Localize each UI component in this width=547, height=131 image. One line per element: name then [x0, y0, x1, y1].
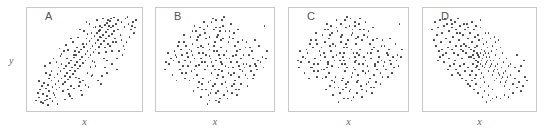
data-point: [192, 54, 194, 56]
plot-area-d: [423, 8, 536, 111]
data-point: [199, 27, 201, 29]
data-point: [47, 104, 49, 106]
data-point: [87, 50, 89, 52]
data-point: [494, 36, 496, 38]
data-point: [59, 48, 61, 50]
data-point: [83, 46, 85, 48]
data-point: [502, 76, 504, 78]
data-point: [42, 93, 44, 95]
data-point: [79, 29, 81, 31]
data-point: [484, 81, 486, 83]
data-point: [198, 52, 200, 54]
data-point: [124, 26, 126, 28]
data-point: [362, 70, 364, 72]
data-point: [500, 81, 502, 83]
data-point: [487, 47, 489, 49]
data-point: [61, 63, 63, 65]
data-point: [455, 29, 457, 31]
panel-label-d: D: [441, 10, 449, 23]
data-point: [462, 34, 464, 36]
data-point: [355, 60, 357, 62]
data-point: [472, 63, 474, 65]
data-point: [215, 19, 217, 21]
data-point: [434, 21, 436, 23]
data-point: [48, 78, 50, 80]
data-point: [363, 34, 365, 36]
data-point: [211, 61, 213, 63]
data-point: [104, 24, 106, 26]
data-point: [73, 88, 75, 90]
data-point: [315, 39, 317, 41]
data-point: [338, 101, 340, 103]
data-point: [469, 74, 471, 76]
data-point: [492, 45, 494, 47]
data-point: [380, 72, 382, 74]
plot-area-a: [27, 8, 142, 111]
data-point: [491, 50, 493, 52]
data-point: [95, 42, 97, 44]
data-point: [56, 89, 58, 91]
data-point: [327, 63, 329, 65]
data-point: [83, 30, 85, 32]
data-point: [334, 81, 336, 83]
data-point: [214, 41, 216, 43]
data-point: [75, 54, 77, 56]
data-point: [431, 29, 433, 31]
data-point: [474, 47, 476, 49]
data-point: [179, 69, 181, 71]
data-point: [185, 45, 187, 47]
data-point: [453, 52, 455, 54]
data-point: [191, 50, 193, 52]
data-point: [90, 48, 92, 50]
data-point: [320, 54, 322, 56]
data-point: [464, 70, 466, 72]
data-point: [78, 85, 80, 87]
data-point: [186, 52, 188, 54]
data-point: [380, 83, 382, 85]
data-point: [117, 19, 119, 21]
data-point: [324, 29, 326, 31]
data-point: [520, 90, 522, 92]
data-point: [369, 78, 371, 80]
data-point: [204, 69, 206, 71]
data-point: [262, 56, 264, 58]
data-point: [368, 70, 370, 72]
data-point: [210, 80, 212, 82]
data-point: [356, 81, 358, 83]
data-point: [66, 58, 68, 60]
data-point: [477, 92, 479, 94]
data-point: [173, 60, 175, 62]
data-point: [237, 29, 239, 31]
data-point: [97, 80, 99, 82]
data-point: [249, 65, 251, 67]
data-point: [194, 69, 196, 71]
data-point: [336, 27, 338, 29]
data-point: [504, 85, 506, 87]
data-point: [106, 72, 108, 74]
data-point: [486, 101, 488, 103]
data-point: [53, 58, 55, 60]
data-point: [263, 67, 265, 69]
data-point: [85, 84, 87, 86]
data-point: [48, 90, 50, 92]
data-point: [463, 63, 465, 65]
data-point: [71, 67, 73, 69]
data-point: [38, 80, 40, 82]
data-point: [238, 89, 240, 91]
data-point: [243, 54, 245, 56]
data-point: [235, 89, 237, 91]
data-point: [483, 43, 485, 45]
data-point: [390, 63, 392, 65]
data-point: [437, 27, 439, 29]
data-point: [341, 63, 343, 65]
panel-label-a: A: [45, 10, 53, 23]
data-point: [91, 38, 93, 40]
data-point: [95, 65, 97, 67]
data-point: [79, 81, 81, 83]
data-point: [194, 58, 196, 60]
data-point: [324, 41, 326, 43]
data-point: [323, 69, 325, 71]
data-point: [105, 51, 107, 53]
data-point: [69, 70, 71, 72]
data-point: [345, 27, 347, 29]
